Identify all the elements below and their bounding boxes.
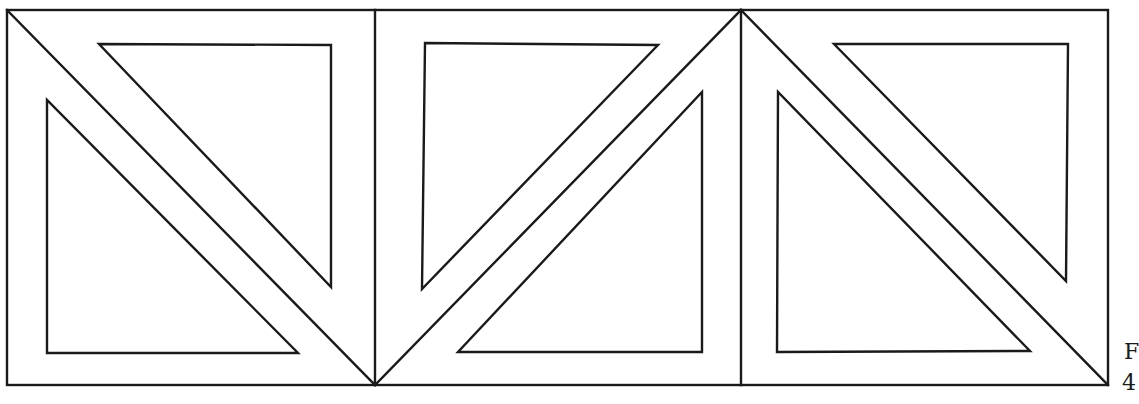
- inner-triangle: [99, 44, 331, 287]
- inner-triangle: [834, 44, 1068, 281]
- inner-triangle: [777, 92, 1030, 352]
- inner-triangle: [422, 43, 658, 289]
- inner-triangle: [458, 92, 702, 352]
- panel-diagonal: [375, 10, 741, 385]
- figure-caption-number: 4: [1122, 372, 1136, 394]
- figure-caption-label: F: [1124, 341, 1139, 363]
- panel-diagonal: [741, 10, 1108, 385]
- panel-diagonal: [7, 10, 375, 385]
- inner-triangle: [47, 100, 298, 353]
